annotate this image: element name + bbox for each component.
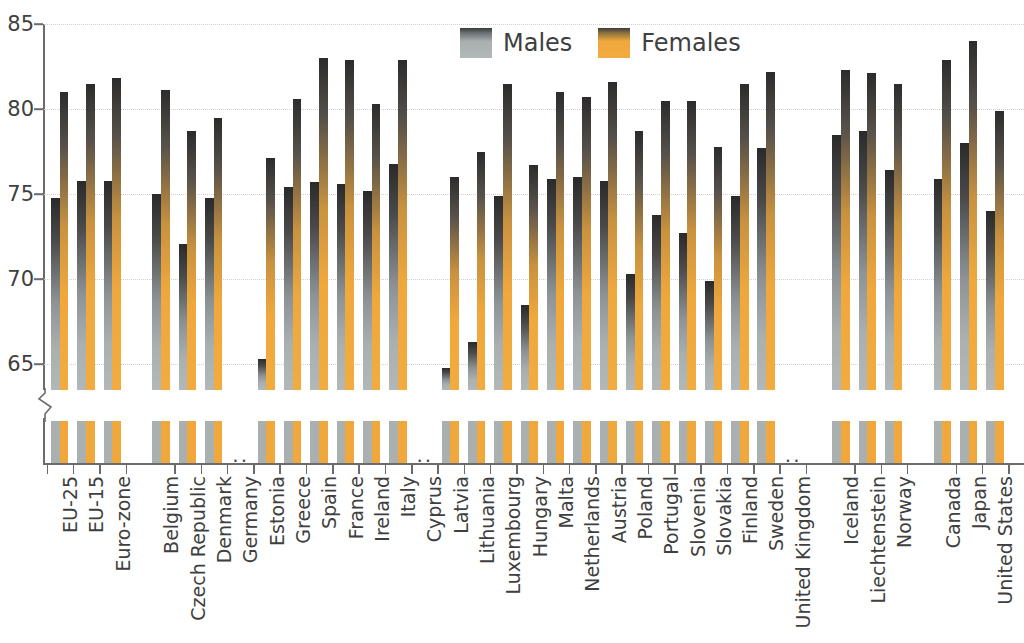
bar-female: [529, 165, 538, 390]
bar-female: [766, 72, 775, 390]
x-axis-label: Hungary: [531, 476, 550, 557]
bar-female: [372, 104, 381, 390]
bar-stub-male: [258, 421, 267, 464]
bar-stub-female: [714, 421, 723, 464]
bar-female: [556, 92, 565, 390]
y-axis-tick-mark: [34, 193, 43, 195]
x-axis-label: Ireland: [373, 476, 392, 542]
missing-data-marker: ..: [232, 450, 249, 460]
bar-male: [757, 148, 766, 390]
bar-stub-male: [757, 421, 766, 464]
x-axis-label: Cyprus: [425, 476, 444, 542]
bar-female: [60, 92, 69, 390]
x-axis-label: Sweden: [767, 476, 786, 551]
bar-stub-male: [104, 421, 113, 464]
x-axis-tick: [385, 465, 387, 474]
bar-stub-male: [934, 421, 943, 464]
x-axis-tick: [47, 465, 49, 474]
bar-stub-male: [600, 421, 609, 464]
x-axis-tick: [595, 465, 597, 474]
bar-stub-female: [582, 421, 591, 464]
bar-stub-female: [319, 421, 328, 464]
bar-female: [942, 60, 951, 390]
x-axis-tick: [516, 465, 518, 474]
bar-stub-female: [266, 421, 275, 464]
x-axis-label: Finland: [741, 476, 760, 544]
x-axis-tick: [648, 465, 650, 474]
bar-male: [363, 191, 372, 390]
x-axis-tick: [854, 465, 856, 474]
bar-male: [179, 244, 188, 390]
x-axis-tick: [569, 465, 571, 474]
bar-stub-male: [832, 421, 841, 464]
x-axis-tick: [464, 465, 466, 474]
bar-male: [521, 305, 530, 390]
x-axis-tick: [279, 465, 281, 474]
bar-stub-male: [626, 421, 635, 464]
x-axis-tick: [753, 465, 755, 474]
x-axis-labels: EU-25EU-15Euro-zoneBelgiumCzech Republic…: [44, 476, 1024, 643]
bar-male: [731, 196, 740, 390]
x-axis-label: Malta: [557, 476, 576, 528]
bar-female: [969, 41, 978, 390]
bar-female: [582, 97, 591, 390]
bar-male: [442, 368, 451, 390]
y-axis-tick-label: 85: [7, 12, 34, 36]
bar-male: [104, 181, 113, 390]
x-axis-tick: [358, 465, 360, 474]
bar-stub-female: [608, 421, 617, 464]
bar-female: [687, 101, 696, 390]
bar-stub-female: [86, 421, 95, 464]
bar-stub-female: [372, 421, 381, 464]
bar-female: [319, 58, 328, 390]
x-axis-tick: [126, 465, 128, 474]
bar-stub-female: [503, 421, 512, 464]
bar-male: [152, 194, 161, 390]
x-axis-tick: [779, 465, 781, 474]
x-axis-label: Estonia: [268, 476, 287, 546]
x-axis-label: Luxembourg: [504, 476, 523, 594]
bar-male: [934, 179, 943, 390]
bar-female: [214, 118, 223, 390]
missing-data-marker: ..: [785, 450, 802, 460]
bar-male: [468, 342, 477, 390]
bar-male: [389, 164, 398, 390]
bar-female: [112, 78, 121, 390]
x-axis-tick: [727, 465, 729, 474]
x-axis-tick: [907, 465, 909, 474]
bar-female: [503, 84, 512, 390]
bar-male: [960, 143, 969, 390]
bar-male: [573, 177, 582, 390]
bar-female: [608, 82, 617, 390]
legend-item-females: Females: [598, 28, 740, 58]
x-axis-label: Lithuania: [478, 476, 497, 564]
x-axis-tick: [674, 465, 676, 474]
x-axis-tick: [982, 465, 984, 474]
y-axis-tick-mark: [34, 108, 43, 110]
x-axis-tick: [201, 465, 203, 474]
bar-female: [450, 177, 459, 390]
bar-stub-male: [442, 421, 451, 464]
x-axis-label: Poland: [636, 476, 655, 539]
x-axis-label: EU-25: [61, 476, 80, 533]
bar-male: [337, 184, 346, 390]
bar-female: [187, 131, 196, 390]
x-axis-tick: [490, 465, 492, 474]
bar-stub-male: [547, 421, 556, 464]
bar-stub-female: [661, 421, 670, 464]
legend-label-females: Females: [641, 29, 740, 57]
x-axis-tick: [253, 465, 255, 474]
legend-swatch-males-icon: [460, 28, 492, 58]
bar-female: [266, 158, 275, 390]
x-axis-label: Latvia: [452, 476, 471, 534]
bar-stub-female: [740, 421, 749, 464]
bar-stub-male: [468, 421, 477, 464]
bar-female: [867, 73, 876, 390]
bar-stub-male: [152, 421, 161, 464]
bar-stub-male: [389, 421, 398, 464]
chart-legend: Males Females: [460, 28, 741, 58]
x-axis-label: Portugal: [662, 476, 681, 555]
bar-stub-male: [310, 421, 319, 464]
bar-stub-male: [859, 421, 868, 464]
x-axis-label: Netherlands: [583, 476, 602, 592]
